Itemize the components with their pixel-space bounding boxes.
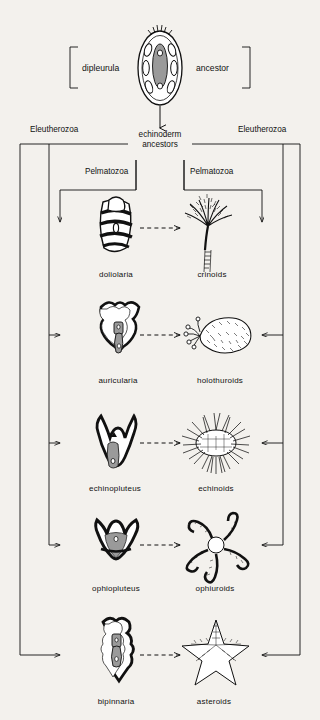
pelmatozoa-brackets [136,160,184,190]
figure-canvas: dipleurula ancestor echinoderm ancestors… [0,0,320,720]
echinoderm-ancestors-label: echinoderm ancestors [139,130,182,150]
echinoderm-ancestors-line1: echinoderm [139,130,182,140]
dipleurula-larva-illustration [138,25,182,105]
echinoid-illustration [182,413,250,474]
asteroid-illustration [182,620,249,685]
adult-label-crinoids: crinoids [197,270,226,279]
echinoderm-phylogeny-diagram [0,0,320,720]
main-branch-lines [20,144,300,655]
larva-label-ophiopluteus: ophiopluteus [92,584,140,593]
larva-label-echinopluteus: echinopluteus [89,484,141,493]
group-label-pelmatozoa-right: Pelmatozoa [190,167,233,176]
auricularia-illustration [100,302,139,353]
adult-label-holothuroids: holothuroids [197,376,243,385]
adult-label-ophiuroids: ophiuroids [196,584,235,593]
holothuroid-illustration [184,317,251,353]
echinoderm-ancestors-line2: ancestors [139,140,182,150]
doliolaria-illustration [100,197,132,252]
larva-label-auricularia: auricularia [98,376,137,385]
ancestor-label: ancestor [196,63,229,73]
bipinnaria-illustration [101,618,134,681]
adult-label-echinoids: echinoids [198,484,234,493]
group-label-pelmatozoa-left: Pelmatozoa [85,167,128,176]
echinopluteus-illustration [97,416,136,468]
ophiopluteus-illustration [96,520,138,559]
ophiuroid-illustration [187,513,249,582]
crinoid-illustration [185,194,232,272]
larva-label-doliolaria: doliolaria [99,270,133,279]
group-label-eleutherozoa-right: Eleutherozoa [238,125,286,134]
group-label-eleutherozoa-left: Eleutherozoa [30,125,78,134]
dipleurula-label: dipleurula [82,63,119,73]
adult-label-asteroids: asteroids [197,697,231,706]
larva-label-bipinnaria: bipinnaria [98,697,135,706]
